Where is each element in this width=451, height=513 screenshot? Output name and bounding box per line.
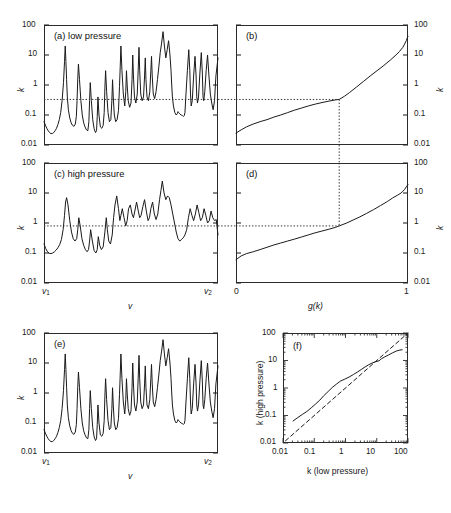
panel-f-xtick-0.01: 0.01 bbox=[272, 448, 288, 456]
panel-f-tag: (f) bbox=[293, 340, 302, 351]
panel-f-plot bbox=[0, 0, 451, 513]
panel-f-xtick-100: 100 bbox=[394, 448, 408, 456]
panel-f-xlabel: k (low pressure) bbox=[307, 467, 368, 476]
panel-f-ytick-0.01: 0.01 bbox=[260, 438, 276, 446]
panel-f-xtick-10: 10 bbox=[366, 448, 375, 456]
panel-f-xtick-0.1: 0.1 bbox=[304, 448, 315, 456]
panel-f-ytick-10: 10 bbox=[268, 356, 277, 364]
panel-f-ytick-100: 100 bbox=[262, 329, 276, 337]
panel-f-ytick-0.1: 0.1 bbox=[265, 411, 276, 419]
panel-f-ytick-1: 1 bbox=[273, 384, 278, 392]
panel-f-xtick-1: 1 bbox=[339, 448, 344, 456]
panel-f-ylabel: k (high pressure) bbox=[256, 361, 265, 425]
